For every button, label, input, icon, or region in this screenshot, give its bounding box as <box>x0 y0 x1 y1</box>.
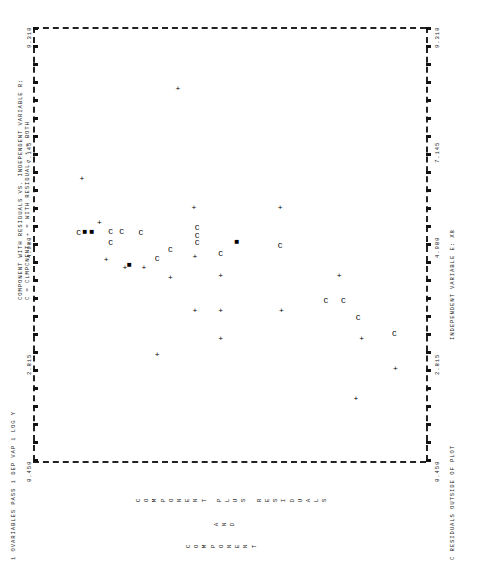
caption-char: M <box>201 544 208 550</box>
caption-char: T <box>250 544 257 550</box>
data-point-clmpcnent: C <box>195 232 200 240</box>
data-point-clmpcnent: C <box>155 255 160 263</box>
data-point-clmpcnent: C <box>218 250 223 258</box>
data-point-with-residual: + <box>359 335 364 343</box>
x-tick-label-4980-bottom: 4.980 <box>434 237 441 258</box>
caption-char: A <box>304 498 311 504</box>
data-point-with-residual: + <box>192 253 197 261</box>
caption-char: S <box>240 498 247 504</box>
data-point-with-residual: + <box>218 335 223 343</box>
data-point-clmpcnent: C <box>323 297 328 305</box>
data-point-with-residual: + <box>97 219 102 227</box>
x-tick-label-4980-top: 4.980 <box>26 237 33 258</box>
caption-char <box>209 497 214 504</box>
caption-char: O <box>143 498 150 504</box>
data-point-with-residual: + <box>168 274 173 282</box>
plot-frame-bottom <box>33 461 426 463</box>
data-point-with-residual: + <box>104 256 109 264</box>
x-axis-title: INDEPENDENT VARIABLE E: X8 <box>449 229 456 340</box>
caption-char: S <box>272 498 279 504</box>
data-point-with-residual: + <box>176 85 181 93</box>
caption-char: R <box>255 498 262 504</box>
data-point-clmpcnent: C <box>195 224 200 232</box>
data-point-with-residual: + <box>79 175 84 183</box>
caption-char: U <box>232 498 239 504</box>
data-point-with-residual: + <box>353 395 358 403</box>
chart-title: COMPONENT WITH RESIDUALS VS. INDEPENDENT… <box>17 79 24 300</box>
caption-char: I <box>280 498 287 504</box>
data-point-clmpcnent: C <box>108 239 113 247</box>
data-point-with-residual: + <box>393 365 398 373</box>
caption-char: N <box>242 544 249 550</box>
caption-char: C <box>185 544 192 550</box>
y-tick-label-0450-right: 0.450 <box>434 461 441 482</box>
data-point-both: ■ <box>90 228 95 236</box>
data-point-with-residual: + <box>192 307 197 315</box>
caption-char: A <box>213 522 220 528</box>
caption-char: E <box>234 544 241 550</box>
caption-char: U <box>296 498 303 504</box>
data-point-clmpcnent: C <box>392 330 397 338</box>
x-tick-label-7145-bottom: 7.145 <box>434 142 441 163</box>
y-axis-right <box>426 27 428 461</box>
data-point-clmpcnent: C <box>119 228 124 236</box>
data-point-clmpcnent: C <box>108 228 113 236</box>
data-point-both: ■ <box>235 238 240 246</box>
data-point-with-residual: + <box>218 307 223 315</box>
data-point-with-residual: + <box>155 351 160 359</box>
caption-char: P <box>215 498 222 504</box>
caption-char: D <box>288 498 295 504</box>
y-axis-title: 1 OVARIABLES PASS 1 DEP VAP 1 LOG Y <box>10 411 17 560</box>
data-points-layer: ++++++++++++++++++++CCCCCCCCCCCCCCCC■■■■ <box>33 27 426 461</box>
data-point-with-residual: + <box>278 204 283 212</box>
caption-char: S <box>321 498 328 504</box>
caption-char: L <box>313 498 320 504</box>
y-tick-label-0450-left: 0.450 <box>26 461 33 482</box>
caption-char: O <box>167 498 174 504</box>
data-point-clmpcnent: C <box>278 242 283 250</box>
caption-char: T <box>200 498 207 504</box>
caption-line-1: COMPONENTPLUSRESIDUALS <box>135 497 327 504</box>
data-point-clmpcnent: C <box>138 229 143 237</box>
y-tick-label-9310-left: 9.310 <box>26 27 33 48</box>
x-tick-label-7145-top: 7.145 <box>26 142 33 163</box>
data-point-with-residual: + <box>141 264 146 272</box>
footnote-label: C RESIDUALS OUTSIDE OF PLOT <box>449 445 456 560</box>
y-tick-label-9310-right: 9.310 <box>434 27 441 48</box>
caption-char: N <box>175 498 182 504</box>
data-point-clmpcnent: C <box>356 314 361 322</box>
data-point-both: ■ <box>127 261 132 269</box>
caption-char: L <box>224 498 231 504</box>
caption-line-2: AND <box>213 521 235 528</box>
caption-char: E <box>184 498 191 504</box>
component-plus-residual-plot: COMPONENT WITH RESIDUALS VS. INDEPENDENT… <box>0 0 478 568</box>
data-point-with-residual: + <box>218 272 223 280</box>
caption-char: O <box>193 544 200 550</box>
caption-char: P <box>159 498 166 504</box>
x-tick-label-2815-bottom: 2.815 <box>434 354 441 375</box>
data-point-clmpcnent: C <box>168 246 173 254</box>
caption-line-3: COMPONENT <box>185 543 257 550</box>
caption-char: O <box>217 544 224 550</box>
caption-char: M <box>151 498 158 504</box>
data-point-with-residual: + <box>192 204 197 212</box>
caption-char: D <box>229 522 236 528</box>
caption-char: C <box>135 498 142 504</box>
data-point-clmpcnent: C <box>76 229 81 237</box>
data-point-clmpcnent: C <box>195 239 200 247</box>
data-point-with-residual: + <box>279 307 284 315</box>
x-tick-label-2815-top: 2.815 <box>26 354 33 375</box>
caption-char <box>249 497 254 504</box>
data-point-both: ■ <box>82 228 87 236</box>
caption-char: N <box>221 522 228 528</box>
caption-char: E <box>264 498 271 504</box>
caption-char: N <box>225 544 232 550</box>
data-point-clmpcnent: C <box>341 297 346 305</box>
data-point-with-residual: + <box>337 272 342 280</box>
caption-char: N <box>192 498 199 504</box>
caption-char: P <box>209 544 216 550</box>
